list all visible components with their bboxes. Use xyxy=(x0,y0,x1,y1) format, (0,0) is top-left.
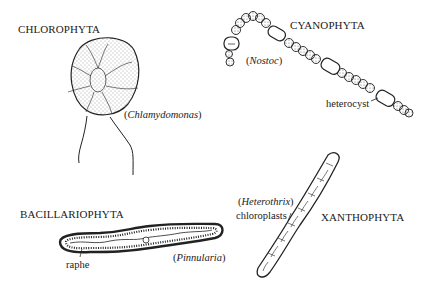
genus-name: Nostoc xyxy=(250,55,279,66)
genus-label-chlamydomonas: (Chlamydomonas) xyxy=(124,110,202,121)
group-label-chlorophyta: CHLOROPHYTA xyxy=(18,24,100,35)
genus-name: Heterothrix xyxy=(242,196,291,207)
label-chloroplasts: chloroplasts xyxy=(236,211,287,222)
group-label-cyanophyta: CYANOPHYTA xyxy=(290,20,365,31)
group-label-xanthophyta: XANTHOPHYTA xyxy=(321,212,404,223)
genus-label-heterothrix: (Heterothrix) xyxy=(238,197,294,208)
label-heterocyst: heterocyst xyxy=(326,99,369,110)
genus-label-pinnularia: (Pinnularia) xyxy=(173,253,226,264)
genus-label-nostoc: (Nostoc) xyxy=(246,56,282,67)
group-label-bacillariophyta: BACILLARIOPHYTA xyxy=(20,209,124,220)
genus-name: Pinnularia xyxy=(177,252,223,263)
chlamydomonas-drawing xyxy=(68,38,139,175)
genus-name: Chlamydomonas xyxy=(128,109,199,120)
label-raphe: raphe xyxy=(66,260,89,271)
